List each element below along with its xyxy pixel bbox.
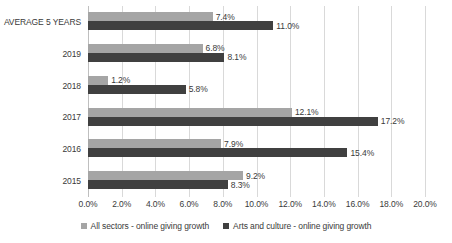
gridline-20.0% bbox=[425, 6, 426, 197]
bar: 7.4% bbox=[88, 12, 213, 21]
chart-legend: All sectors - online giving growthArts a… bbox=[0, 221, 452, 231]
bar: 6.8% bbox=[88, 44, 203, 53]
legend-swatch-icon bbox=[223, 223, 229, 229]
bar-group: 7.4%11.0% bbox=[88, 6, 425, 38]
value-axis-tick-labels: 0.0%2.0%4.0%6.0%8.0%10.0%12.0%14.0%16.0%… bbox=[88, 199, 425, 213]
bar: 9.2% bbox=[88, 171, 243, 180]
bar-fill bbox=[88, 76, 108, 85]
bar-fill bbox=[88, 180, 228, 189]
bar-fill bbox=[88, 53, 224, 62]
bar-value-label: 8.3% bbox=[231, 180, 250, 190]
plot-area: 7.4%11.0%6.8%8.1%1.2%5.8%12.1%17.2%7.9%1… bbox=[88, 6, 425, 197]
legend-swatch-icon bbox=[81, 223, 87, 229]
bar-value-label: 15.4% bbox=[350, 148, 374, 158]
bar-fill bbox=[88, 44, 203, 53]
category-label: 2015 bbox=[62, 165, 81, 197]
bar: 1.2% bbox=[88, 76, 108, 85]
bar-rows: 7.4%11.0%6.8%8.1%1.2%5.8%12.1%17.2%7.9%1… bbox=[88, 6, 425, 197]
bar-fill bbox=[88, 148, 347, 157]
x-axis-tick-label: 18.0% bbox=[379, 199, 403, 209]
x-axis-tick-label: 4.0% bbox=[146, 199, 165, 209]
bar-fill bbox=[88, 12, 213, 21]
x-axis-tick-label: 16.0% bbox=[346, 199, 370, 209]
bar-value-label: 8.1% bbox=[227, 52, 246, 62]
legend-label: All sectors - online giving growth bbox=[91, 221, 210, 231]
bar: 15.4% bbox=[88, 148, 347, 157]
bar-fill bbox=[88, 139, 221, 148]
category-label: AVERAGE 5 YEARS bbox=[4, 6, 81, 38]
bar-fill bbox=[88, 21, 273, 30]
x-axis-tick-label: 12.0% bbox=[278, 199, 302, 209]
legend-item[interactable]: Arts and culture - online giving growth bbox=[223, 221, 371, 231]
x-axis-tick-label: 14.0% bbox=[312, 199, 336, 209]
bar-value-label: 17.2% bbox=[381, 116, 405, 126]
bar-group: 1.2%5.8% bbox=[88, 70, 425, 102]
x-axis-tick-label: 6.0% bbox=[180, 199, 199, 209]
bar: 12.1% bbox=[88, 108, 292, 117]
bar-group: 6.8%8.1% bbox=[88, 38, 425, 70]
bar: 8.3% bbox=[88, 180, 228, 189]
bar-fill bbox=[88, 117, 378, 126]
bar-fill bbox=[88, 85, 186, 94]
bar: 11.0% bbox=[88, 21, 273, 30]
bar: 7.9% bbox=[88, 139, 221, 148]
bar: 5.8% bbox=[88, 85, 186, 94]
x-axis-tick-label: 20.0% bbox=[413, 199, 437, 209]
category-label: 2016 bbox=[62, 133, 81, 165]
x-axis-tick-label: 10.0% bbox=[245, 199, 269, 209]
bar-value-label: 12.1% bbox=[295, 107, 319, 117]
bar-chart: 7.4%11.0%6.8%8.1%1.2%5.8%12.1%17.2%7.9%1… bbox=[0, 0, 452, 243]
bar-value-label: 11.0% bbox=[276, 21, 299, 31]
bar-group: 9.2%8.3% bbox=[88, 165, 425, 197]
category-label: 2018 bbox=[62, 70, 81, 102]
category-axis-labels: AVERAGE 5 YEARS20192018201720162015 bbox=[0, 6, 85, 197]
x-axis-tick-label: 0.0% bbox=[79, 199, 98, 209]
bar-group: 12.1%17.2% bbox=[88, 102, 425, 134]
legend-label: Arts and culture - online giving growth bbox=[233, 221, 371, 231]
bar: 8.1% bbox=[88, 53, 224, 62]
bar-group: 7.9%15.4% bbox=[88, 133, 425, 165]
bar-value-label: 6.8% bbox=[206, 43, 225, 53]
category-label: 2019 bbox=[62, 38, 81, 70]
bar-value-label: 5.8% bbox=[189, 84, 208, 94]
bar-fill bbox=[88, 171, 243, 180]
bar: 17.2% bbox=[88, 117, 378, 126]
x-axis-tick-label: 8.0% bbox=[213, 199, 232, 209]
legend-item[interactable]: All sectors - online giving growth bbox=[81, 221, 210, 231]
category-label: 2017 bbox=[62, 102, 81, 134]
bar-fill bbox=[88, 108, 292, 117]
bar-value-label: 1.2% bbox=[111, 75, 130, 85]
bar-value-label: 7.4% bbox=[216, 12, 235, 22]
bar-value-label: 7.9% bbox=[224, 139, 243, 149]
x-axis-tick-label: 2.0% bbox=[112, 199, 131, 209]
